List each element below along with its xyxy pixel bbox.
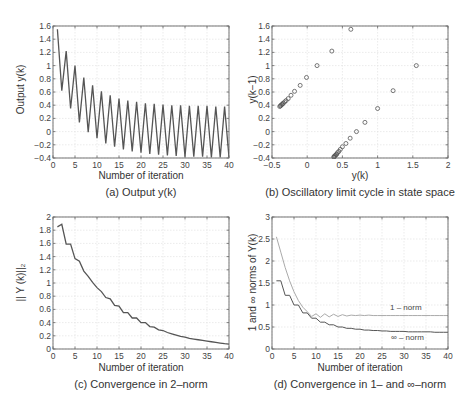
svg-text:25: 25 — [377, 351, 387, 361]
svg-text:40: 40 — [443, 351, 453, 361]
panel-d-1-inf-norm: 051015202530354000.511.522.53 1 and ∞ no… — [0, 0, 473, 408]
svg-text:1.5: 1.5 — [258, 278, 270, 288]
x-axis-label: Number of iteration — [272, 362, 448, 373]
svg-text:5: 5 — [292, 351, 297, 361]
legend-inf-norm: ∞ – norm — [391, 333, 424, 342]
svg-text:0: 0 — [270, 351, 275, 361]
svg-text:15: 15 — [333, 351, 343, 361]
chart-convergence-1-inf-norm: 051015202530354000.511.522.53 — [0, 0, 473, 408]
svg-text:0: 0 — [265, 344, 270, 354]
svg-text:30: 30 — [399, 351, 409, 361]
svg-text:3: 3 — [265, 212, 270, 222]
svg-text:2: 2 — [265, 256, 270, 266]
figure-caption: (d) Convergence in 1– and ∞–norm — [262, 378, 458, 390]
svg-text:2.5: 2.5 — [258, 234, 270, 244]
svg-text:35: 35 — [421, 351, 431, 361]
y-axis-label: 1 and ∞ norms of Y(k) — [247, 228, 258, 338]
legend-1-norm: 1 – norm — [390, 303, 422, 312]
svg-text:0.5: 0.5 — [258, 322, 270, 332]
svg-text:10: 10 — [311, 351, 321, 361]
svg-text:1: 1 — [265, 300, 270, 310]
svg-text:20: 20 — [355, 351, 365, 361]
